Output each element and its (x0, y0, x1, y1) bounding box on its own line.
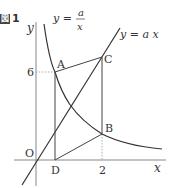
x-tick-2: 2 (99, 164, 106, 177)
y-axis-label: y (26, 21, 34, 35)
point-A-label: A (56, 58, 66, 71)
hyperbola-label-lhs: y = (52, 12, 72, 25)
line-label: y = a x (119, 28, 159, 41)
y-tick-6: 6 (27, 66, 34, 79)
hyperbola-label-denominator: x (77, 21, 83, 32)
hyperbola-label-numerator: a (78, 7, 84, 18)
line-y-ax (22, 28, 120, 185)
point-D-label: D (51, 164, 60, 177)
segment-DB (55, 134, 102, 160)
point-B-label: B (105, 122, 113, 135)
hyperbola-curve (44, 24, 162, 149)
origin-label: O (25, 147, 34, 160)
diagram: y x O 6 2 A C B D y = a x y = a x (0, 0, 170, 188)
point-C-label: C (104, 53, 112, 66)
x-axis-label: x (154, 161, 161, 175)
